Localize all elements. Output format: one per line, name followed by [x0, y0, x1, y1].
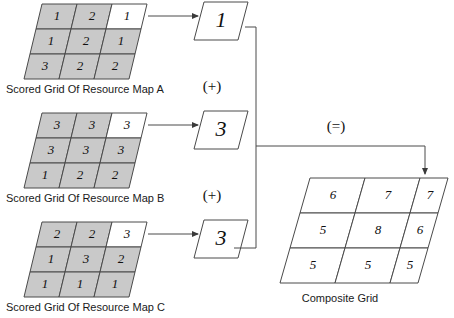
grid-cell-value: 3	[88, 117, 96, 132]
grid-cell-value: 3	[117, 142, 125, 157]
scored-grid-map-b: 3 3 3 3 3 3 1 2 2 Scored Grid Of Resourc…	[6, 113, 164, 204]
grid-cell-value: 2	[89, 226, 96, 241]
operator-plus-label: (+)	[203, 78, 221, 95]
extracted-value-c: 3	[194, 220, 248, 258]
grid-cell-value: 1	[77, 276, 84, 291]
grid-cell-value: 3	[123, 117, 131, 132]
grid-cell-value: 1	[54, 8, 61, 23]
operator-plus-label: (+)	[203, 187, 221, 204]
diagram-canvas: 1 2 1 1 2 1 3 2 2 Scored Grid Of Resourc…	[0, 0, 454, 318]
grid-cell-value: 2	[112, 58, 119, 73]
grid-cell-value: 2	[77, 58, 84, 73]
grid-cell-value: 2	[83, 33, 90, 48]
grid-cell-value: 1	[48, 33, 55, 48]
grid-cell-value: 2	[112, 167, 119, 182]
extracted-value-a: 1 (+)	[194, 2, 248, 95]
grid-cell-value: 2	[77, 167, 84, 182]
grid-cell-value: 2	[118, 251, 125, 266]
scored-grid-map-c: 2 2 3 1 3 2 1 1 1 Scored Grid Of Resourc…	[6, 222, 165, 313]
grid-cell-value: 1	[112, 276, 119, 291]
grid-cell-value: 1	[48, 251, 55, 266]
grid-cell-value: 3	[123, 226, 131, 241]
grid-cell-value: 1	[118, 33, 125, 48]
grid-cell-value: 1	[42, 167, 49, 182]
composite-cell-value: 5	[365, 257, 372, 272]
grid-cell-value: 3	[47, 142, 55, 157]
composite-grid: 6 7 7 5 8 6 5 5 5 Composite Grid	[280, 178, 448, 304]
extracted-value-text: 3	[215, 225, 227, 250]
arrow-to-composite-grid	[256, 146, 425, 174]
grid-cell-value: 1	[42, 276, 49, 291]
composite-cell-value: 5	[320, 222, 327, 237]
composite-cell-value: 8	[375, 222, 382, 237]
grid-cell-value: 1	[124, 8, 131, 23]
grid-cell-value: 3	[53, 117, 61, 132]
grid-caption-map-c: Scored Grid Of Resource Map C	[6, 301, 165, 313]
composite-cell-value: 6	[417, 222, 424, 237]
grid-cell-value: 2	[89, 8, 96, 23]
composite-cell-value: 6	[330, 187, 337, 202]
grid-caption-map-a: Scored Grid Of Resource Map A	[6, 83, 164, 95]
grid-cell-value: 2	[54, 226, 61, 241]
composite-cell-value: 7	[427, 187, 434, 202]
composite-grid-caption: Composite Grid	[302, 292, 378, 304]
grid-cell-value: 3	[82, 251, 90, 266]
composite-cell-value: 5	[407, 257, 414, 272]
operator-equals-label: (=)	[327, 118, 345, 135]
scored-grid-map-a: 1 2 1 1 2 1 3 2 2 Scored Grid Of Resourc…	[6, 4, 164, 95]
extracted-value-b: 3 (+)	[194, 111, 248, 204]
composite-cell-value: 7	[385, 187, 392, 202]
extracted-value-text: 1	[216, 7, 227, 32]
extracted-value-text: 3	[215, 116, 227, 141]
grid-cell-value: 3	[41, 58, 49, 73]
grid-cell-value: 3	[82, 142, 90, 157]
resource-map-composite-diagram: 1 2 1 1 2 1 3 2 2 Scored Grid Of Resourc…	[0, 0, 454, 318]
composite-cell-value: 5	[310, 257, 317, 272]
grid-caption-map-b: Scored Grid Of Resource Map B	[6, 192, 164, 204]
